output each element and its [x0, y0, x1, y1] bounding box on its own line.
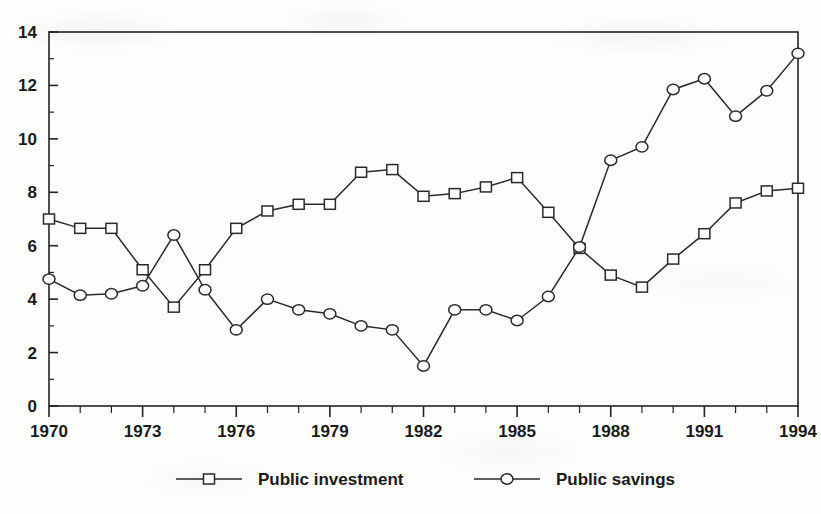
circle-marker [199, 285, 211, 295]
square-marker [543, 207, 554, 217]
y-tick-label: 10 [18, 130, 37, 149]
circle-marker [511, 315, 523, 325]
circle-marker [386, 325, 398, 335]
y-tick-label: 2 [28, 344, 37, 363]
circle-marker [574, 242, 586, 252]
square-marker [231, 223, 242, 233]
y-tick-label: 14 [18, 23, 37, 42]
square-marker [200, 265, 211, 275]
circle-marker [293, 305, 305, 315]
x-tick-label: 1985 [498, 422, 536, 441]
square-marker [204, 474, 215, 484]
square-marker [418, 191, 429, 201]
circle-marker [168, 230, 180, 240]
x-tick-label: 1970 [30, 422, 68, 441]
chart-page: 02468101214 1970197319761979198219851988… [0, 0, 821, 514]
line-chart: 02468101214 1970197319761979198219851988… [0, 0, 821, 514]
data-series-group [43, 48, 804, 371]
square-marker [730, 198, 741, 208]
square-marker [262, 206, 273, 216]
y-tick-label: 6 [28, 237, 37, 256]
circle-marker [105, 289, 117, 299]
x-tick-label: 1979 [311, 422, 349, 441]
legend-label: Public savings [556, 470, 675, 489]
circle-marker [636, 142, 648, 152]
x-tick-label: 1982 [405, 422, 443, 441]
square-marker [480, 182, 491, 192]
y-tick-label: 8 [28, 183, 37, 202]
series-public-savings [43, 48, 804, 371]
square-marker [512, 173, 523, 183]
x-tick-label: 1973 [124, 422, 162, 441]
square-marker [668, 254, 679, 264]
square-marker [137, 265, 148, 275]
y-tick-label: 4 [28, 290, 38, 309]
y-tick-label: 12 [18, 76, 37, 95]
square-marker [761, 186, 772, 196]
circle-marker [480, 305, 492, 315]
x-tick-label: 1988 [592, 422, 630, 441]
circle-marker [501, 474, 513, 484]
circle-marker [730, 111, 742, 121]
square-marker [168, 302, 179, 312]
circle-marker [605, 155, 617, 165]
plot-frame [49, 32, 798, 406]
circle-marker [667, 84, 679, 94]
y-tick-label: 0 [28, 397, 37, 416]
square-marker [293, 199, 304, 209]
square-marker [605, 270, 616, 280]
square-marker [44, 214, 55, 224]
square-marker [636, 282, 647, 292]
x-axis: 197019731976197919821985198819911994 [30, 406, 817, 441]
circle-marker [230, 325, 242, 335]
legend-item-2: Public savings [474, 470, 675, 489]
square-marker [793, 183, 804, 193]
circle-marker [698, 74, 710, 84]
circle-marker [137, 281, 149, 291]
square-marker [75, 223, 86, 233]
series-line [49, 53, 798, 366]
chart-legend: Public investmentPublic savings [176, 470, 675, 489]
circle-marker [355, 321, 367, 331]
series-line [49, 170, 798, 308]
square-marker [699, 229, 710, 239]
x-tick-label: 1994 [779, 422, 817, 441]
square-marker [324, 199, 335, 209]
legend-label: Public investment [258, 470, 404, 489]
circle-marker [542, 291, 554, 301]
x-tick-label: 1991 [685, 422, 723, 441]
legend-item-1: Public investment [176, 470, 404, 489]
circle-marker [761, 86, 773, 96]
square-marker [449, 189, 460, 199]
circle-marker [792, 48, 804, 58]
square-marker [106, 223, 117, 233]
circle-marker [261, 294, 273, 304]
square-marker [387, 165, 398, 175]
circle-marker [449, 305, 461, 315]
circle-marker [324, 309, 336, 319]
circle-marker [74, 290, 86, 300]
x-tick-label: 1976 [217, 422, 255, 441]
circle-marker [418, 361, 430, 371]
series-public-investment [44, 165, 804, 313]
circle-marker [43, 274, 55, 284]
square-marker [356, 167, 367, 177]
